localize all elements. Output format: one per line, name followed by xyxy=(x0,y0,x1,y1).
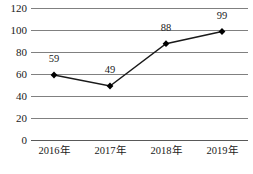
x-tick-label-2016: 2016年 xyxy=(24,145,84,157)
y-tick-label-60: 60 xyxy=(0,69,27,80)
data-markers xyxy=(51,28,226,89)
y-tick-label-0: 0 xyxy=(0,135,27,146)
data-point-2019 xyxy=(219,28,226,35)
data-point-2016 xyxy=(51,72,58,79)
y-tick-label-100: 100 xyxy=(0,25,27,36)
data-label-2019: 99 xyxy=(202,10,242,21)
y-tick-label-120: 120 xyxy=(0,3,27,14)
data-label-2016: 59 xyxy=(34,53,74,64)
data-label-2017: 49 xyxy=(90,64,130,75)
x-tick-label-2018: 2018年 xyxy=(136,145,196,157)
data-line-series-1 xyxy=(54,32,222,87)
y-tick-label-40: 40 xyxy=(0,91,27,102)
line-chart: 120 100 80 60 40 20 0 2016年 2017年 2018年 … xyxy=(0,0,253,174)
y-tick-label-80: 80 xyxy=(0,47,27,58)
x-tick-label-2019: 2019年 xyxy=(192,145,252,157)
data-label-2018: 88 xyxy=(146,22,186,33)
y-tick-label-20: 20 xyxy=(0,113,27,124)
x-tick-label-2017: 2017年 xyxy=(80,145,140,157)
